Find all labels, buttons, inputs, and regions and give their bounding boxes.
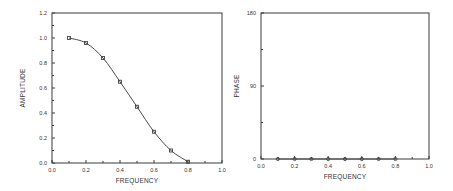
amplitude-plot: 0.00.20.40.60.81.00.00.20.40.60.81.01.2F… (19, 10, 226, 185)
x-tick-label: 1.0 (425, 163, 433, 169)
x-axis-label: FREQUENCY (324, 173, 367, 181)
x-tick-label: 0.6 (150, 167, 158, 173)
x-tick-label: 0.6 (358, 163, 366, 169)
amplitude-line (69, 38, 188, 162)
x-tick-label: 0.4 (324, 163, 332, 169)
x-axis-label: FREQUENCY (116, 177, 159, 185)
y-tick-label: 180 (247, 10, 256, 16)
y-tick-label: 0.4 (39, 110, 47, 116)
x-tick-label: 0.8 (392, 163, 400, 169)
y-tick-label: 0.2 (39, 135, 47, 141)
y-tick-label: 0.8 (39, 60, 47, 66)
x-tick-label: 0.0 (48, 167, 56, 173)
y-axis-label: PHASE (233, 74, 240, 98)
y-tick-label: 0.0 (39, 160, 47, 166)
y-tick-label: 90 (250, 83, 256, 89)
x-tick-label: 1.0 (218, 167, 226, 173)
x-tick-label: 0.0 (257, 163, 265, 169)
chart-canvas: 0.00.20.40.60.81.00.00.20.40.60.81.01.2F… (0, 0, 453, 191)
y-tick-label: 0.6 (39, 85, 47, 91)
x-tick-label: 0.8 (184, 167, 192, 173)
phase-plot: 0.00.20.40.60.81.0090180FREQUENCYPHASE (233, 10, 433, 181)
x-tick-label: 0.2 (291, 163, 299, 169)
y-tick-label: 1.0 (39, 35, 47, 41)
plot-frame (52, 13, 222, 163)
y-tick-label: 1.2 (39, 10, 47, 16)
x-tick-label: 0.4 (116, 167, 124, 173)
y-tick-label: 0 (253, 156, 256, 162)
y-axis-label: AMPLITUDE (19, 68, 26, 107)
x-tick-label: 0.2 (82, 167, 90, 173)
plot-frame (261, 13, 429, 159)
